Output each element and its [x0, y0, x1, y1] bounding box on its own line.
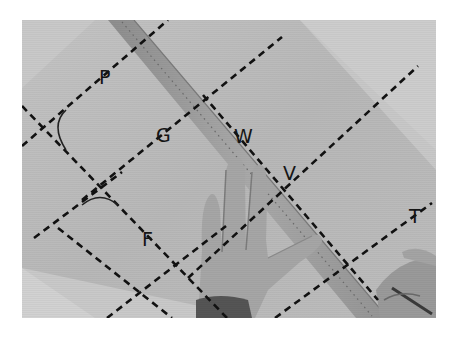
label-v: V	[283, 162, 296, 184]
photo-figure: PGWVFT	[0, 0, 449, 339]
label-w: W	[234, 125, 253, 147]
label-g: G	[156, 124, 171, 146]
label-p: P	[99, 66, 110, 88]
label-f: F	[142, 228, 153, 250]
label-t: T	[408, 205, 421, 227]
